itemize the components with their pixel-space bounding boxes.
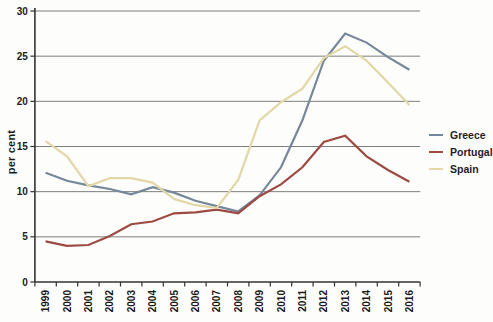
legend-swatch-portugal bbox=[429, 151, 443, 153]
y-tick-label: 20 bbox=[17, 96, 29, 107]
y-tick-label: 10 bbox=[17, 186, 29, 197]
legend-swatch-spain bbox=[429, 168, 443, 170]
legend: Greece Portugal Spain bbox=[429, 129, 493, 175]
x-tick-label: 2008 bbox=[233, 290, 244, 313]
x-tick-label: 2001 bbox=[83, 290, 94, 313]
x-tick-label: 2002 bbox=[104, 290, 115, 313]
x-tick-label: 2015 bbox=[383, 290, 394, 313]
legend-label-portugal: Portugal bbox=[450, 146, 493, 158]
x-tick-label: 2013 bbox=[340, 290, 351, 313]
y-tick-label: 30 bbox=[17, 6, 29, 17]
series-line-portugal bbox=[46, 136, 410, 246]
x-tick-label: 2016 bbox=[404, 290, 415, 313]
y-tick-label: 25 bbox=[17, 51, 29, 62]
series-line-spain bbox=[46, 46, 410, 208]
legend-swatch-greece bbox=[429, 134, 443, 136]
legend-item-spain: Spain bbox=[429, 163, 493, 175]
series-line-greece bbox=[46, 34, 410, 212]
y-tick-label: 0 bbox=[22, 277, 28, 288]
gridlines bbox=[35, 11, 420, 237]
x-tick-label: 2009 bbox=[254, 290, 265, 313]
x-tick-label: 2004 bbox=[147, 290, 158, 313]
legend-item-greece: Greece bbox=[429, 129, 493, 141]
y-axis-title: per cent bbox=[5, 130, 17, 174]
x-tick-label: 2000 bbox=[62, 290, 73, 313]
y-tick-label: 5 bbox=[22, 231, 28, 242]
x-tick-label: 2005 bbox=[169, 290, 180, 313]
y-tick-label: 15 bbox=[17, 141, 29, 152]
x-tick-label: 2010 bbox=[276, 290, 287, 313]
y-axis: 051015202530 bbox=[17, 6, 35, 288]
x-tick-label: 2003 bbox=[126, 290, 137, 313]
x-tick-label: 2012 bbox=[318, 290, 329, 313]
x-tick-label: 1999 bbox=[40, 290, 51, 313]
x-tick-label: 2011 bbox=[297, 290, 308, 312]
legend-label-greece: Greece bbox=[450, 129, 486, 141]
x-axis: 1999200020012002200320042005200620072008… bbox=[35, 282, 420, 312]
legend-label-spain: Spain bbox=[450, 163, 479, 175]
x-tick-label: 2014 bbox=[361, 290, 372, 313]
x-tick-label: 2006 bbox=[190, 290, 201, 313]
x-tick-label: 2007 bbox=[211, 290, 222, 313]
legend-item-portugal: Portugal bbox=[429, 146, 493, 158]
